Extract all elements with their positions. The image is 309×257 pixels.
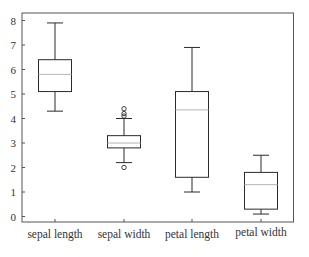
y-tick-label: 7 [11, 39, 17, 51]
box-sepal-width [108, 107, 141, 170]
x-category-label: sepal width [98, 228, 151, 241]
y-tick-label: 1 [11, 186, 17, 198]
plot-frame [22, 13, 294, 222]
y-tick-label: 2 [11, 162, 17, 174]
iqr-box [108, 136, 141, 148]
y-tick-label: 3 [11, 137, 17, 149]
box-sepal-length [39, 23, 72, 111]
iqr-box [176, 92, 209, 178]
x-category-label: petal length [165, 228, 219, 241]
y-tick-label: 8 [11, 15, 17, 27]
y-axis: 012345678 [11, 15, 26, 223]
iqr-box [245, 172, 278, 209]
x-category-label: sepal length [27, 228, 82, 241]
boxes [39, 23, 278, 214]
y-tick-label: 4 [11, 113, 17, 125]
boxplot-chart: 012345678 sepal lengthsepal widthpetal l… [0, 0, 309, 257]
outlier-marker [122, 107, 126, 111]
y-tick-label: 5 [11, 88, 17, 100]
y-tick-label: 0 [11, 211, 17, 223]
box-petal-width [245, 155, 278, 214]
iqr-box [39, 60, 72, 92]
outlier-marker [122, 165, 126, 169]
x-category-label: petal width [235, 226, 287, 239]
y-tick-label: 6 [11, 64, 17, 76]
box-petal-length [176, 47, 209, 192]
